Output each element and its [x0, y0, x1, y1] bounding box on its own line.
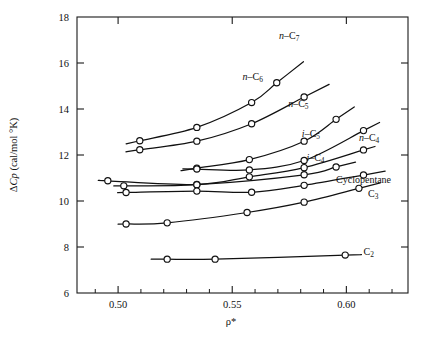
data-point-marker	[194, 124, 200, 130]
data-point-marker	[123, 189, 129, 195]
data-point-marker	[194, 166, 200, 172]
x-tick-label: 0.50	[109, 299, 127, 310]
data-point-marker	[137, 138, 143, 144]
data-point-marker	[246, 167, 252, 173]
data-point-marker	[123, 221, 129, 227]
y-tick-label: 6	[64, 288, 69, 299]
data-point-marker	[249, 99, 255, 105]
data-point-marker	[246, 157, 252, 163]
x-tick-label: 0.55	[223, 299, 241, 310]
data-point-marker	[164, 256, 170, 262]
data-point-marker	[301, 182, 307, 188]
data-point-marker	[137, 147, 143, 153]
y-tick-label: 14	[59, 104, 70, 115]
y-tick-label: 12	[59, 150, 70, 161]
data-point-marker	[301, 199, 307, 205]
data-point-marker	[301, 165, 307, 171]
y-tick-label: 18	[59, 12, 70, 23]
data-point-marker	[360, 147, 366, 153]
data-point-marker	[301, 172, 307, 178]
x-tick-label: 0.60	[337, 299, 355, 310]
y-axis-title: ΔCp (cal/mol °K)	[8, 117, 20, 192]
y-axis-title-group: ΔCp (cal/mol °K)	[8, 117, 20, 192]
chart-figure: 0.500.550.60 681012141618 n–C7n–C6n–C5i–…	[0, 0, 423, 338]
data-point-marker	[333, 116, 339, 122]
data-point-marker	[249, 189, 255, 195]
x-axis-title: ρ*	[226, 316, 237, 327]
data-point-marker	[356, 185, 362, 191]
cp-vs-density-line-chart: 0.500.550.60 681012141618 n–C7n–C6n–C5i–…	[0, 0, 423, 338]
data-point-marker	[274, 80, 280, 86]
data-point-marker	[244, 209, 250, 215]
data-point-marker	[194, 188, 200, 194]
data-point-marker	[105, 178, 111, 184]
y-tick-label: 8	[64, 242, 69, 253]
data-point-marker	[121, 183, 127, 189]
data-point-marker	[212, 256, 218, 262]
data-point-marker	[249, 121, 255, 127]
data-point-marker	[333, 164, 339, 170]
data-point-marker	[194, 138, 200, 144]
data-point-marker	[342, 252, 348, 258]
y-tick-label: 10	[59, 196, 70, 207]
data-point-marker	[164, 220, 170, 226]
y-tick-label: 16	[59, 58, 70, 69]
data-point-marker	[194, 182, 200, 188]
curve-label-cyclopentane: Cyclopentane	[336, 174, 392, 185]
data-point-marker	[246, 174, 252, 180]
